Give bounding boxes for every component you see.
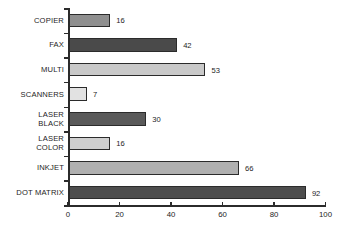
- bar-fill: [69, 186, 306, 200]
- bar-row: SCANNERS7: [0, 82, 348, 107]
- bar-fill: [69, 14, 110, 28]
- x-axis-line: [68, 205, 326, 207]
- x-axis-tick: [170, 202, 172, 207]
- y-axis-tick: [64, 57, 69, 59]
- y-axis-tick: [64, 180, 69, 182]
- bar-fill: [69, 87, 87, 101]
- category-label-line: MULTI: [41, 65, 64, 74]
- x-axis-tick-label: 60: [203, 210, 243, 220]
- category-label: LASERBLACK: [0, 107, 64, 132]
- x-axis-tick-label: 20: [100, 210, 140, 220]
- category-label-line: COLOR: [36, 143, 64, 152]
- x-axis-tick-label: 80: [254, 210, 294, 220]
- y-axis-tick: [64, 131, 69, 133]
- x-axis-tick: [67, 202, 69, 207]
- bar-row: LASERCOLOR16: [0, 131, 348, 156]
- category-label: COPIER: [0, 8, 64, 33]
- y-axis-tick: [64, 156, 69, 158]
- x-axis-tick: [273, 202, 275, 207]
- category-label: FAX: [0, 33, 64, 58]
- bar-value-label: 30: [152, 114, 160, 123]
- bar-laser-color[interactable]: 16: [69, 137, 110, 151]
- bar-value-label: 7: [93, 90, 97, 99]
- x-axis-tick-label: 40: [151, 210, 191, 220]
- bar-fill: [69, 112, 146, 126]
- category-label-line: DOT MATRIX: [16, 188, 64, 197]
- bar-value-label: 53: [211, 65, 219, 74]
- bar-fax[interactable]: 42: [69, 38, 177, 52]
- y-axis-tick: [64, 33, 69, 35]
- category-label-line: SCANNERS: [21, 90, 64, 99]
- bar-chart: COPIER16FAX42MULTI53SCANNERS7LASERBLACK3…: [0, 0, 348, 235]
- x-axis-tick: [325, 202, 327, 207]
- bar-value-label: 66: [245, 164, 253, 173]
- x-axis-tick: [222, 202, 224, 207]
- bar-laser-black[interactable]: 30: [69, 112, 146, 126]
- category-label-line: LASER: [38, 134, 64, 143]
- category-label-line: FAX: [49, 40, 64, 49]
- bar-value-label: 92: [312, 188, 320, 197]
- category-label-line: LASER: [38, 110, 64, 119]
- category-label-line: INKJET: [37, 163, 64, 172]
- bar-row: LASERBLACK30: [0, 107, 348, 132]
- bar-fill: [69, 63, 205, 77]
- bar-value-label: 42: [183, 40, 191, 49]
- bar-row: DOT MATRIX92: [0, 180, 348, 205]
- x-axis-tick-label: 100: [306, 210, 346, 220]
- bar-value-label: 16: [116, 16, 124, 25]
- bar-scanners[interactable]: 7: [69, 87, 87, 101]
- bar-multi[interactable]: 53: [69, 63, 205, 77]
- bar-fill: [69, 38, 177, 52]
- category-label: INKJET: [0, 156, 64, 181]
- bar-inkjet[interactable]: 66: [69, 161, 239, 175]
- y-axis-tick: [64, 107, 69, 109]
- y-axis-tick: [64, 82, 69, 84]
- category-label: DOT MATRIX: [0, 180, 64, 205]
- category-label: SCANNERS: [0, 82, 64, 107]
- category-label: MULTI: [0, 57, 64, 82]
- bar-row: FAX42: [0, 33, 348, 58]
- category-label-line: BLACK: [38, 119, 64, 128]
- bar-row: COPIER16: [0, 8, 348, 33]
- bar-fill: [69, 137, 110, 151]
- x-axis-tick-label: 0: [48, 210, 88, 220]
- bar-value-label: 16: [116, 139, 124, 148]
- bar-dot-matrix[interactable]: 92: [69, 186, 306, 200]
- bar-copier[interactable]: 16: [69, 14, 110, 28]
- x-axis-tick: [119, 202, 121, 207]
- y-axis-tick: [64, 8, 69, 10]
- bar-row: INKJET66: [0, 156, 348, 181]
- category-label-line: COPIER: [34, 16, 64, 25]
- category-label: LASERCOLOR: [0, 131, 64, 156]
- bar-row: MULTI53: [0, 57, 348, 82]
- bar-fill: [69, 161, 239, 175]
